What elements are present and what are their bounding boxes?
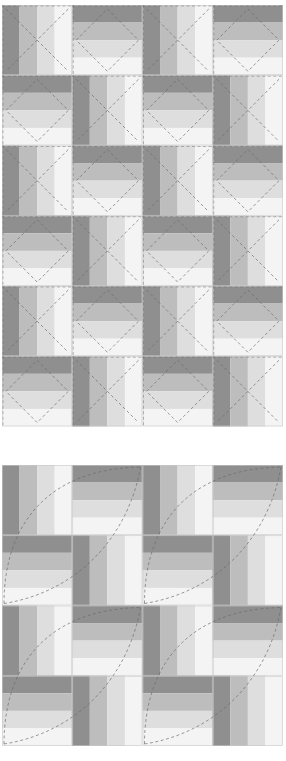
quilt-block <box>2 606 72 676</box>
quilt-block <box>72 146 142 216</box>
quilt-block <box>143 606 213 676</box>
quilt-block <box>2 356 72 426</box>
quilt-block <box>143 356 213 426</box>
quilt-block <box>213 535 283 605</box>
quilt-block <box>72 5 142 75</box>
quilt-block <box>72 606 142 676</box>
quilt-block <box>72 465 142 535</box>
quilt-block <box>213 286 283 356</box>
quilt-block <box>72 676 142 746</box>
quilt-block <box>213 606 283 676</box>
quilt-block <box>213 146 283 216</box>
quilt-block <box>143 216 213 286</box>
quilt-block <box>143 75 213 145</box>
quilt-block <box>2 216 72 286</box>
quilt-block <box>2 465 72 535</box>
quilt-block <box>2 75 72 145</box>
quilt-diagram-bottom <box>2 465 283 746</box>
quilt-block <box>213 5 283 75</box>
quilt-block <box>72 535 142 605</box>
quilt-diagram-top <box>2 5 283 427</box>
quilt-block <box>213 676 283 746</box>
rail-fence-arc-quilting <box>2 465 283 746</box>
quilt-block <box>72 286 142 356</box>
quilt-block <box>143 465 213 535</box>
quilt-block <box>213 465 283 535</box>
rail-fence-diamond-quilting <box>2 5 283 427</box>
